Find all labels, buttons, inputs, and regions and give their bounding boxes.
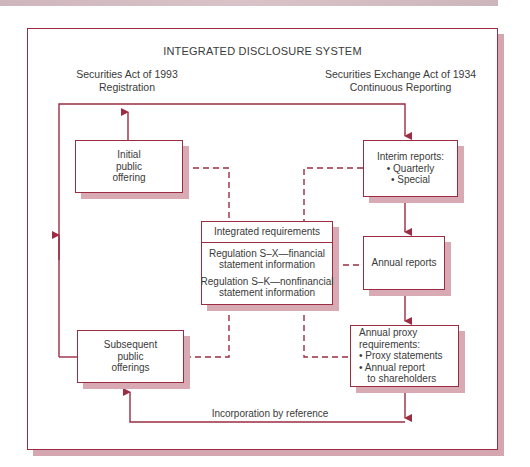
annual-reports-box: Annual reports xyxy=(363,236,445,290)
regulation-sx: Regulation S–X—financial statement infor… xyxy=(209,243,325,271)
initial-line-1: Initial xyxy=(117,149,140,161)
initial-line-3: offering xyxy=(112,172,145,184)
sk-line-2: statement information xyxy=(201,287,334,299)
annual-line-1: Annual reports xyxy=(371,257,436,269)
subsequent-line-2: public xyxy=(117,351,143,363)
integrated-header: Integrated requirements xyxy=(202,222,332,243)
interim-reports-box: Interim reports: • Quarterly • Special xyxy=(363,140,458,197)
subsequent-line-1: Subsequent xyxy=(104,339,157,351)
proxy-line-3: • Proxy statements xyxy=(359,350,443,362)
proxy-line-5: to shareholders xyxy=(359,373,436,385)
integrated-requirements-box: Integrated requirements Regulation S–X—f… xyxy=(201,221,333,305)
subsequent-line-3: offerings xyxy=(111,362,149,374)
interim-line-3: • Special xyxy=(391,174,430,186)
proxy-line-1: Annual proxy xyxy=(359,327,417,339)
sx-line-1: Regulation S–X—financial xyxy=(209,248,325,260)
subsequent-offerings-box: Subsequent public offerings xyxy=(77,330,184,383)
interim-line-2: • Quarterly xyxy=(387,163,434,175)
proxy-line-2: requirements: xyxy=(359,339,420,351)
initial-offering-box: Initial public offering xyxy=(75,140,183,193)
regulation-sk: Regulation S–K—nonfinancial statement in… xyxy=(201,271,334,299)
proxy-line-4: • Annual report xyxy=(359,362,425,374)
dash-integrated-proxy xyxy=(304,305,350,357)
dash-integrated-subsequent xyxy=(184,305,229,357)
dash-initial-integrated xyxy=(183,168,229,221)
sk-line-1: Regulation S–K—nonfinancial xyxy=(201,276,334,288)
interim-line-1: Interim reports: xyxy=(377,151,444,163)
incorporation-label: Incorporation by reference xyxy=(200,408,340,421)
annual-proxy-box: Annual proxy requirements: • Proxy state… xyxy=(350,325,459,387)
initial-line-2: public xyxy=(116,161,142,173)
sx-line-2: statement information xyxy=(209,259,325,271)
dash-interim-integrated xyxy=(304,168,363,221)
